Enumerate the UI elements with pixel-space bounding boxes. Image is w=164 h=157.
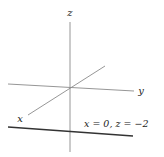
line-label: x = 0, z = −2 <box>84 118 148 129</box>
diagram-canvas: z y x x = 0, z = −2 <box>0 0 164 157</box>
x-axis-label: x <box>17 113 23 124</box>
x-axis <box>28 66 105 115</box>
y-axis-label: y <box>137 85 144 96</box>
z-axis-label: z <box>66 7 73 18</box>
